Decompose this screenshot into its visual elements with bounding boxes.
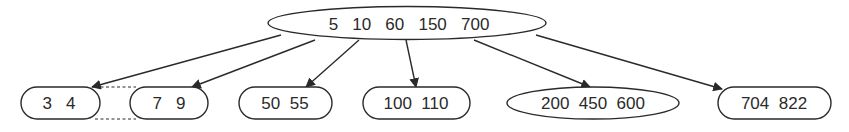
leaf-node-5: 704 822: [718, 87, 831, 119]
leaf-node-2: 50 55: [239, 87, 332, 119]
leaf-node-0: 3 4: [21, 87, 100, 119]
leaf-node-keys: 200 450 600: [541, 94, 645, 113]
root-node: 5 10 60 150 700: [268, 7, 546, 40]
edge-root-to-leaf-3: [406, 40, 416, 87]
leaf-node-1: 7 9: [130, 87, 208, 119]
leaf-node-3: 100 110: [363, 87, 470, 119]
edge-root-to-leaf-0: [92, 35, 281, 87]
edges: [92, 35, 722, 89]
leaf-node-keys: 100 110: [384, 94, 449, 113]
leaf-node-4: 200 450 600: [507, 87, 679, 119]
edge-root-to-leaf-2: [306, 40, 359, 87]
leaf-node-keys: 704 822: [741, 94, 807, 113]
edge-root-to-leaf-1: [192, 40, 315, 87]
leaf-node-keys: 7 9: [152, 94, 185, 113]
edge-root-to-leaf-5: [536, 35, 722, 89]
b-tree-diagram: 5 10 60 150 700 3 4 7 9 50 55 100 110 20…: [0, 0, 849, 132]
edge-root-to-leaf-4: [474, 40, 590, 87]
leaf-node-keys: 50 55: [261, 94, 308, 113]
root-node-keys: 5 10 60 150 700: [329, 15, 490, 34]
leaf-node-keys: 3 4: [42, 94, 75, 113]
